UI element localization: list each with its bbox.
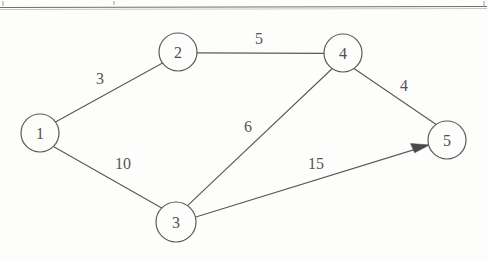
node-2[interactable]: 2 [159, 33, 197, 71]
edge-weight-4-5: 4 [400, 77, 408, 94]
edge-4-5 [354, 69, 437, 125]
node-1-label: 1 [36, 125, 44, 142]
node-2-label: 2 [174, 44, 182, 61]
page-rule-group [0, 1, 487, 10]
edge-weight-1-2: 3 [96, 70, 104, 87]
nodes-group: 1 2 3 4 5 [21, 33, 466, 242]
graph-diagram: 1 2 3 4 5 3 10 5 6 [0, 0, 487, 261]
edge-weight-1-3: 10 [115, 155, 131, 172]
figure-canvas: 1 2 3 4 5 3 10 5 6 [0, 0, 487, 261]
edge-weight-3-5: 15 [308, 155, 324, 172]
edge-1-3 [53, 147, 162, 209]
edge-3-4 [188, 69, 332, 206]
edge-weight-3-4: 6 [244, 118, 252, 135]
arrowhead-icon [411, 144, 430, 153]
node-4-label: 4 [339, 45, 347, 62]
node-3-label: 3 [172, 214, 180, 231]
node-5[interactable]: 5 [428, 121, 466, 159]
node-3[interactable]: 3 [156, 202, 196, 242]
page-rule-line [0, 7, 487, 8]
node-4[interactable]: 4 [324, 34, 362, 72]
page-rule-shadow [0, 9, 487, 10]
edge-1-2 [55, 63, 162, 122]
edge-2-4 [197, 53, 324, 54]
node-5-label: 5 [443, 132, 451, 149]
edge-weight-2-4: 5 [255, 30, 263, 47]
edges-group [53, 53, 437, 217]
node-1[interactable]: 1 [21, 114, 59, 152]
